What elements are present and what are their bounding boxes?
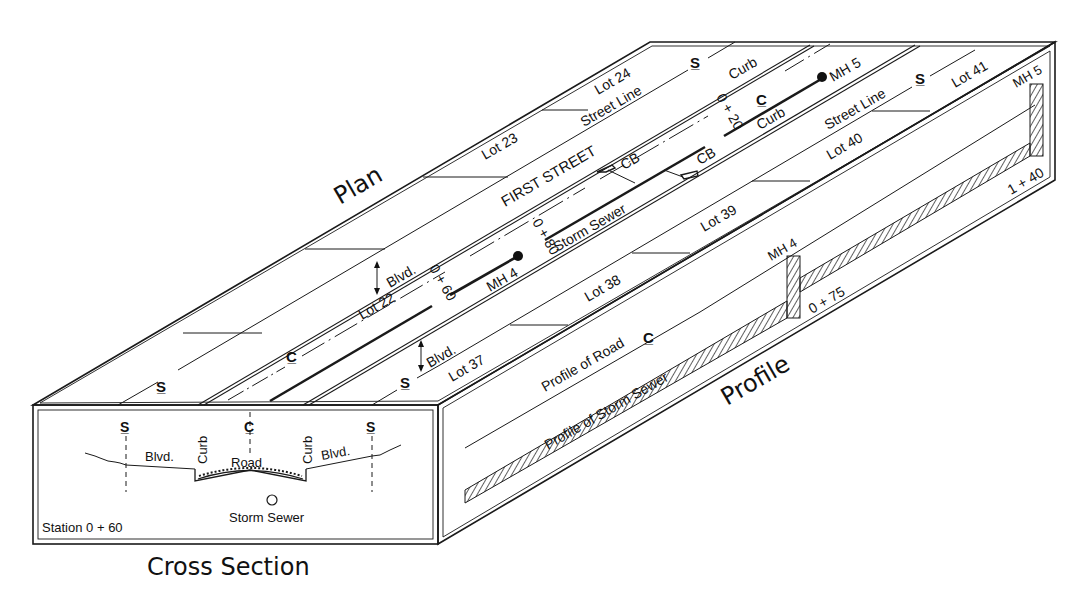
cross-section-title: Cross Section <box>147 553 310 581</box>
station-label: Station 0 + 60 <box>42 520 123 535</box>
cb-north-label: CB <box>618 149 643 173</box>
manhole-5-profile <box>1030 84 1043 156</box>
catch-basin-south <box>664 170 698 179</box>
station-0-75-label: 0 + 75 <box>806 283 848 317</box>
centerline-symbol: C̲ <box>756 91 767 108</box>
blvd-left-label: Blvd. <box>145 449 174 464</box>
mh5-plan-label: MH 5 <box>827 54 864 85</box>
cross-section-view: S̲ C̲ S̲ Blvd. Blvd. Curb Curb Road Stor… <box>42 412 401 535</box>
centerline-symbol: C̲ <box>286 348 297 365</box>
mh4-plan-label: MH 4 <box>484 264 521 295</box>
street-line-symbol: S̲ <box>400 374 410 391</box>
blvd-right-label: Blvd. <box>320 443 351 463</box>
street-line-symbol: S̲ <box>915 70 925 87</box>
street-line-symbol: S̲ <box>690 54 700 71</box>
street-block-diagram: Lot 22 Lot 23 Lot 24 Street Line FIRST S… <box>0 0 1092 606</box>
blvd-arrow-north <box>374 261 380 295</box>
plan-title: Plan <box>329 160 387 210</box>
street-line-south <box>372 390 397 405</box>
station-0-60-label: 0 + 60 <box>426 262 460 304</box>
road-profile-label: Profile of Road <box>539 334 627 394</box>
street-line-south-label: Street Line <box>822 85 889 133</box>
lot-22-label: Lot 22 <box>356 289 398 322</box>
profile-view: Profile of Road C̲ Profile of Storm Sewe… <box>465 62 1047 503</box>
manhole-5-marker <box>817 72 827 82</box>
curb-north-label: Curb <box>726 53 760 82</box>
lot-23-label: Lot 23 <box>479 129 521 162</box>
curb-right-label: Curb <box>300 436 315 464</box>
storm-sewer-pipe <box>267 495 277 505</box>
centerline-symbol: C̲ <box>244 419 254 435</box>
road-label: Road <box>231 455 262 470</box>
centerline <box>228 367 285 400</box>
street-line-symbol: S̲ <box>366 419 376 435</box>
station-0-20-label: 0 + 20 <box>713 91 747 133</box>
station-1-40-label: 1 + 40 <box>1005 164 1047 198</box>
street-line-symbol: S̲ <box>156 378 166 395</box>
street-line-north <box>118 382 158 405</box>
cb-south-label: CB <box>694 144 719 168</box>
profile-title: Profile <box>716 350 795 412</box>
storm-sewer-label: Storm Sewer <box>551 200 629 254</box>
storm-sewer-label: Storm Sewer <box>229 510 305 525</box>
curb-left-label: Curb <box>195 436 210 464</box>
centerline-symbol: C̲ <box>643 329 654 346</box>
street-line-symbol: S̲ <box>120 419 130 435</box>
plan-view: Lot 22 Lot 23 Lot 24 Street Line FIRST S… <box>118 42 990 405</box>
manhole-4-profile <box>787 256 800 318</box>
manhole-4-marker <box>513 251 523 261</box>
